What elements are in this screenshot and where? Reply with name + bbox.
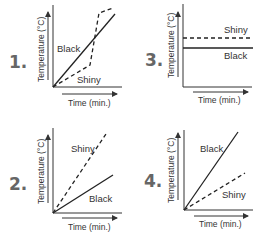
series-label: Shiny [224, 24, 248, 35]
series-label: Black [224, 50, 247, 61]
panel-number: 2. [9, 174, 27, 194]
panel-4: 4. Temperature (°C) Time (min.) Black Sh… [144, 130, 253, 229]
y-axis-label: Temperature (°C) [166, 138, 176, 203]
panel-2: 2. Temperature (°C) Time (min.) Shiny Bl… [9, 128, 122, 232]
series-label: Black [200, 143, 223, 154]
series-label: Shiny [71, 143, 95, 154]
figure: 1. Temperature (°C) Time (min.) Black Sh… [0, 0, 268, 241]
x-axis-label: Time (min.) [68, 98, 111, 108]
y-axis-label: Temperature (°C) [166, 13, 176, 78]
series-label: Shiny [222, 189, 246, 200]
x-axis-label: Time (min.) [198, 95, 241, 105]
series-label: Black [57, 43, 80, 54]
x-axis-label: Time (min.) [68, 222, 111, 232]
y-axis-label: Temperature (°C) [36, 139, 46, 204]
y-axis-label: Temperature (°C) [36, 17, 46, 82]
series-label: Shiny [77, 74, 101, 85]
panel-1: 1. Temperature (°C) Time (min.) Black Sh… [9, 5, 122, 108]
panel-number: 1. [9, 52, 27, 72]
x-axis-label: Time (min.) [199, 219, 242, 229]
series-label: Black [89, 193, 112, 204]
panel-number: 4. [144, 171, 162, 191]
panel-3: 3. Temperature (°C) Time (min.) Shiny Bl… [145, 4, 253, 105]
panel-number: 3. [145, 50, 163, 70]
